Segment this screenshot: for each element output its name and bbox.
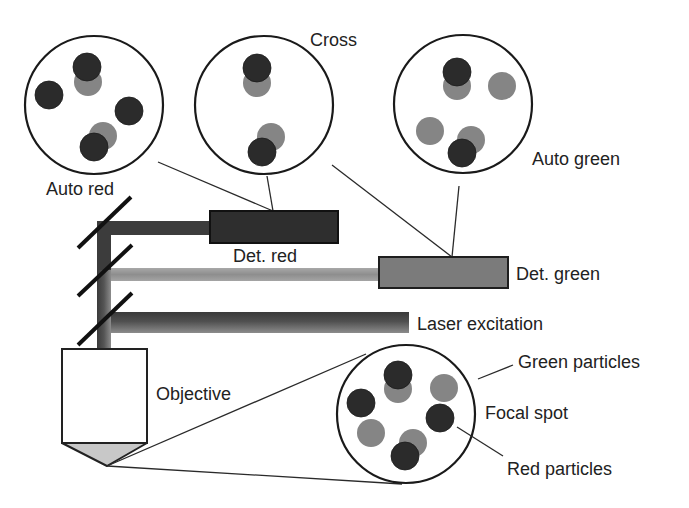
green-particles-label: Green particles [518, 352, 640, 372]
objective-body [62, 349, 147, 443]
auto-red-label: Auto red [46, 179, 114, 199]
green-particle [416, 117, 444, 145]
green-particle [357, 419, 385, 447]
cross-to-det-green-connector [332, 165, 452, 257]
det-red-label: Det. red [233, 246, 297, 266]
red-particle [73, 53, 101, 81]
red-particle [248, 138, 276, 166]
green-particle [488, 72, 516, 100]
red-particle [384, 361, 412, 389]
red-particle [35, 81, 63, 109]
green-particle [430, 374, 458, 402]
red-particle [426, 404, 454, 432]
vertical-beam-lower [97, 270, 111, 350]
red-particles-label: Red particles [507, 459, 612, 479]
auto-green-connector [452, 186, 459, 257]
laser-excitation-beam [104, 312, 409, 333]
focal-spot-view [337, 345, 475, 483]
focal-spot-label: Focal spot [485, 403, 568, 423]
auto-green-label: Auto green [532, 149, 620, 169]
detector-red [210, 211, 338, 243]
red-particle [448, 139, 476, 167]
red-particle [347, 389, 375, 417]
auto-green-view [394, 35, 532, 173]
det-green-label: Det. green [516, 264, 600, 284]
red-particle [243, 54, 271, 82]
objective-label: Objective [156, 384, 231, 404]
red-particle [115, 97, 143, 125]
auto-red-view [25, 36, 163, 174]
laser-excitation-label: Laser excitation [417, 314, 543, 334]
green-emission-beam [104, 268, 381, 281]
cross-view [195, 36, 333, 174]
confocal-cross-correlation-diagram: Cross Auto red Auto green Det. red Det. … [0, 0, 689, 508]
red-particle [443, 58, 471, 86]
red-particle [391, 442, 419, 470]
green-particles-leader [478, 365, 513, 379]
cross-label: Cross [310, 30, 357, 50]
red-emission-beam [100, 221, 212, 235]
detector-green [379, 257, 508, 288]
red-particle [80, 133, 108, 161]
cross-to-det-red-connector [267, 176, 273, 211]
focal-cone-lower-line [107, 466, 402, 484]
